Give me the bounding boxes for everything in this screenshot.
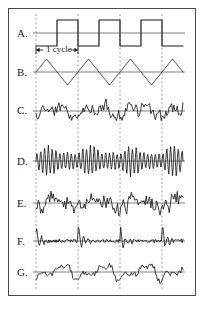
trace-label-d: D. bbox=[17, 155, 28, 167]
waveform-trace-f bbox=[36, 227, 183, 248]
waveform-trace-e bbox=[36, 191, 183, 216]
waveform-trace-c bbox=[36, 99, 183, 121]
waveform-trace-g bbox=[36, 263, 183, 284]
trace-label-a: A. bbox=[17, 27, 28, 39]
trace-label-b: B. bbox=[17, 66, 27, 78]
trace-label-c: C. bbox=[17, 104, 27, 116]
waveform-figure: A. B. C. D. E. F. G. 1 cycle bbox=[0, 0, 204, 312]
cycle-annotation-label: 1 cycle bbox=[46, 44, 72, 54]
trace-label-e: E. bbox=[17, 197, 26, 209]
trace-label-f: F. bbox=[17, 235, 25, 247]
trace-label-g: G. bbox=[17, 266, 28, 278]
waveform-plot bbox=[0, 0, 204, 312]
